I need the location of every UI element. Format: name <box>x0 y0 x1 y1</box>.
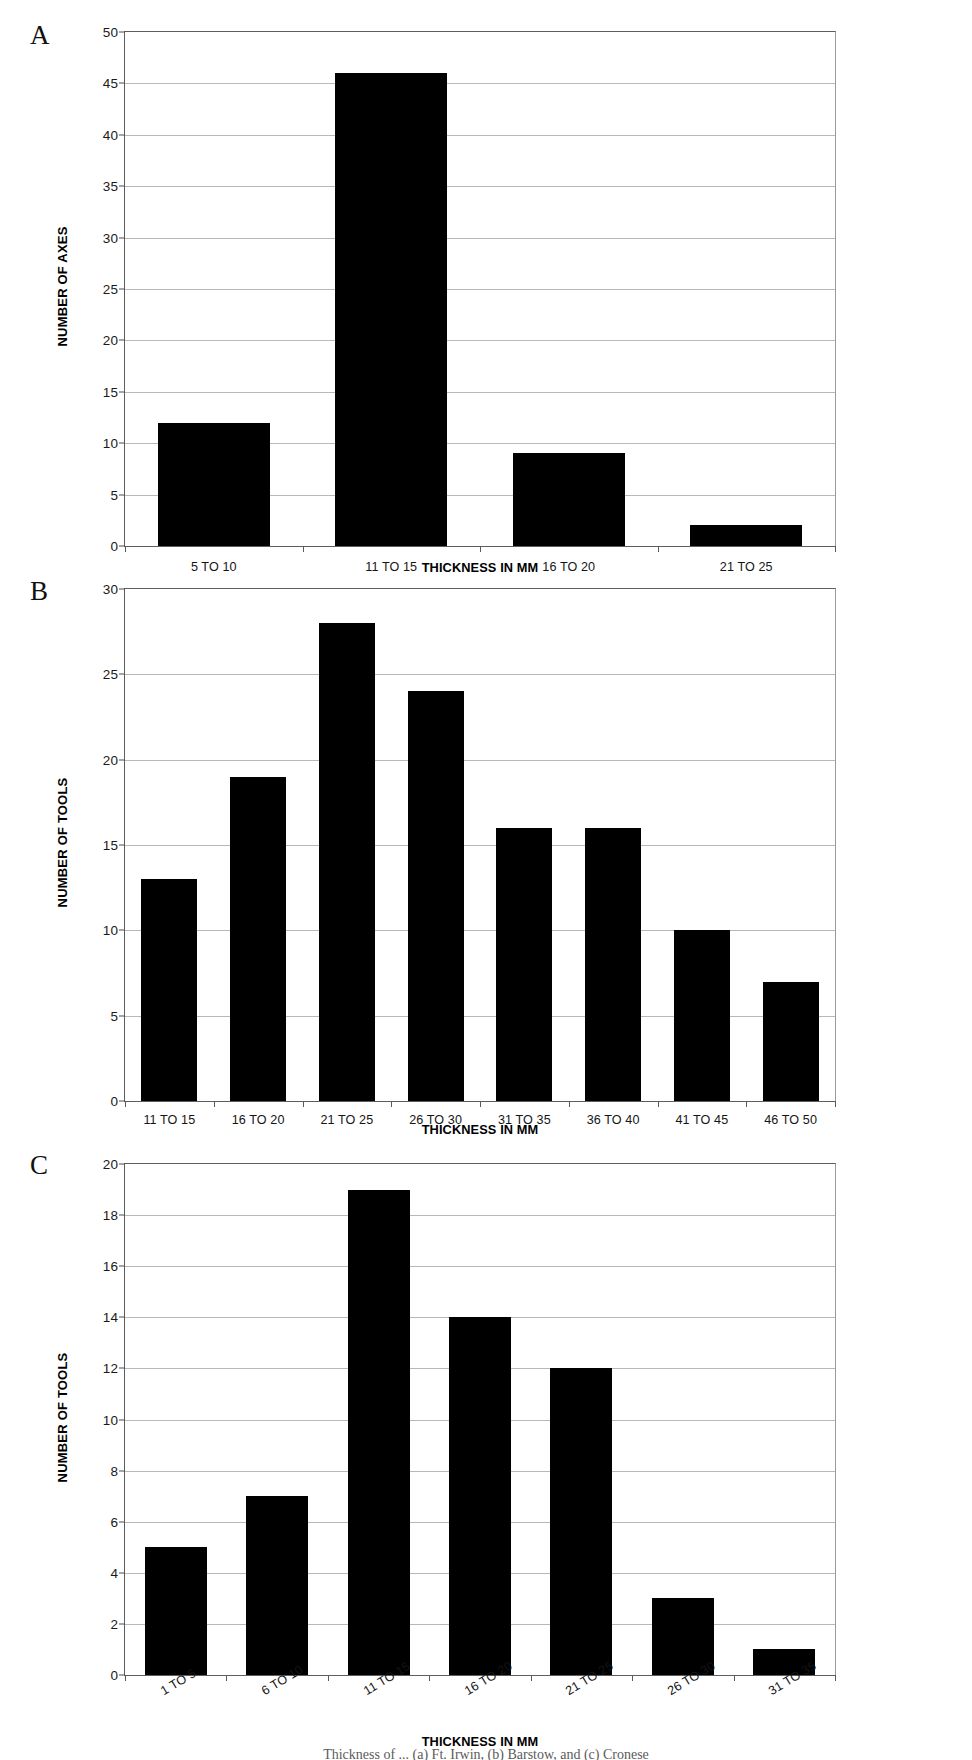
x-tick-mark <box>391 1101 392 1107</box>
y-tick-label: 5 <box>110 1008 118 1023</box>
gridline <box>125 186 835 187</box>
y-tick-mark <box>119 186 125 187</box>
bar <box>141 879 197 1101</box>
y-tick-mark <box>119 1572 125 1573</box>
figure-page: A 051015202530354045505 TO 1011 TO 1516 … <box>0 0 972 1760</box>
y-tick-label: 25 <box>103 667 118 682</box>
bar <box>513 453 625 546</box>
x-tick-label: 16 TO 20 <box>232 1113 285 1127</box>
x-tick-mark <box>835 1675 836 1681</box>
bar <box>449 1317 511 1675</box>
y-tick-mark <box>119 443 125 444</box>
gridline <box>125 340 835 341</box>
x-tick-mark <box>658 546 659 552</box>
gridline <box>125 238 835 239</box>
x-tick-mark <box>125 1675 126 1681</box>
panel-a-plot-area: 051015202530354045505 TO 1011 TO 1516 TO… <box>124 31 836 547</box>
gridline <box>125 674 835 675</box>
x-tick-mark <box>658 1101 659 1107</box>
y-tick-label: 20 <box>103 333 118 348</box>
y-tick-mark <box>119 1419 125 1420</box>
x-tick-label: 21 TO 25 <box>320 1113 373 1127</box>
x-tick-label: 11 TO 15 <box>143 1113 195 1127</box>
x-tick-mark <box>303 1101 304 1107</box>
x-tick-mark <box>632 1675 633 1681</box>
bar <box>246 1496 308 1675</box>
y-tick-label: 14 <box>103 1310 118 1325</box>
y-tick-mark <box>119 1470 125 1471</box>
x-tick-mark <box>125 546 126 552</box>
gridline <box>125 1215 835 1216</box>
y-tick-label: 35 <box>103 179 118 194</box>
bar <box>550 1368 612 1675</box>
gridline <box>125 289 835 290</box>
x-tick-mark <box>480 1101 481 1107</box>
gridline <box>125 83 835 84</box>
panel-c: C 024681012141618201 TO 56 TO 1011 TO 15… <box>0 1130 972 1760</box>
y-tick-label: 10 <box>103 1412 118 1427</box>
y-tick-mark <box>119 134 125 135</box>
y-tick-mark <box>119 1015 125 1016</box>
y-tick-label: 10 <box>103 923 118 938</box>
y-tick-label: 25 <box>103 282 118 297</box>
y-tick-mark <box>119 674 125 675</box>
y-tick-mark <box>119 32 125 33</box>
y-tick-label: 15 <box>103 838 118 853</box>
panel-c-letter: C <box>30 1152 48 1179</box>
y-tick-label: 6 <box>110 1514 118 1529</box>
x-tick-mark <box>328 1675 329 1681</box>
gridline <box>125 392 835 393</box>
y-tick-label: 50 <box>103 25 118 40</box>
gridline <box>125 1266 835 1267</box>
x-tick-mark <box>734 1675 735 1681</box>
x-tick-mark <box>429 1675 430 1681</box>
bar <box>319 623 375 1101</box>
y-tick-mark <box>119 1623 125 1624</box>
y-tick-label: 0 <box>110 1668 118 1683</box>
bar <box>230 777 286 1101</box>
bar <box>585 828 641 1101</box>
gridline <box>125 760 835 761</box>
y-tick-label: 20 <box>103 752 118 767</box>
x-tick-mark <box>531 1675 532 1681</box>
bar <box>158 423 270 546</box>
figure-caption: Thickness of ... (a) Ft. Irwin, (b) Bars… <box>0 1747 972 1760</box>
y-tick-mark <box>119 83 125 84</box>
x-tick-mark <box>214 1101 215 1107</box>
y-tick-label: 0 <box>110 539 118 554</box>
y-tick-mark <box>119 237 125 238</box>
y-tick-label: 30 <box>103 230 118 245</box>
panel-c-y-axis-title: NUMBER OF TOOLS <box>55 1317 70 1517</box>
y-tick-mark <box>119 845 125 846</box>
y-tick-mark <box>119 1266 125 1267</box>
x-tick-mark <box>835 1101 836 1107</box>
panel-a-letter: A <box>30 22 50 49</box>
x-tick-mark <box>480 546 481 552</box>
bar <box>674 930 730 1101</box>
y-tick-label: 16 <box>103 1259 118 1274</box>
x-tick-mark <box>569 1101 570 1107</box>
y-tick-mark <box>119 759 125 760</box>
y-tick-label: 18 <box>103 1208 118 1223</box>
x-tick-mark <box>125 1101 126 1107</box>
bar <box>690 525 802 546</box>
x-tick-mark <box>303 546 304 552</box>
bar <box>763 982 819 1101</box>
y-tick-label: 10 <box>103 436 118 451</box>
y-tick-label: 2 <box>110 1616 118 1631</box>
y-tick-mark <box>119 1164 125 1165</box>
x-tick-label: 36 TO 40 <box>587 1113 640 1127</box>
y-tick-mark <box>119 340 125 341</box>
bar <box>496 828 552 1101</box>
y-tick-label: 15 <box>103 384 118 399</box>
bar <box>408 691 464 1101</box>
panel-c-plot-area: 024681012141618201 TO 56 TO 1011 TO 1516… <box>124 1163 836 1676</box>
y-tick-label: 8 <box>110 1463 118 1478</box>
y-tick-mark <box>119 391 125 392</box>
panel-a-y-axis-title: NUMBER OF AXES <box>55 187 70 387</box>
y-tick-mark <box>119 1317 125 1318</box>
gridline <box>125 135 835 136</box>
bar <box>348 1190 410 1675</box>
y-tick-mark <box>119 1215 125 1216</box>
x-tick-label: 41 TO 45 <box>675 1113 728 1127</box>
